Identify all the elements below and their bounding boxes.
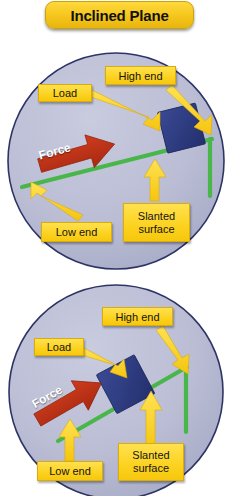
label-high-end-steep: High end — [102, 307, 173, 326]
label-text: Load — [47, 341, 71, 353]
label-text: Low end — [49, 465, 91, 477]
illustration-canvas: Inclined Plane — [0, 0, 238, 496]
label-text: Low end — [56, 226, 98, 238]
label-text: Load — [53, 87, 77, 99]
label-low-end-shallow: Low end — [41, 222, 112, 242]
label-text-line1: Slanted — [138, 210, 175, 223]
label-load-shallow: Load — [38, 84, 92, 102]
label-high-end-shallow: High end — [105, 66, 176, 85]
label-text-line1: Slanted — [132, 449, 169, 462]
label-low-end-steep: Low end — [37, 461, 103, 481]
label-text-line2: surface — [133, 462, 169, 475]
label-text: High end — [118, 70, 162, 82]
label-slanted-surface-shallow: Slanted surface — [123, 203, 190, 242]
label-text-line2: surface — [138, 223, 174, 236]
label-load-steep: Load — [34, 338, 84, 356]
label-slanted-surface-steep: Slanted surface — [118, 443, 184, 481]
label-text: High end — [115, 311, 159, 323]
